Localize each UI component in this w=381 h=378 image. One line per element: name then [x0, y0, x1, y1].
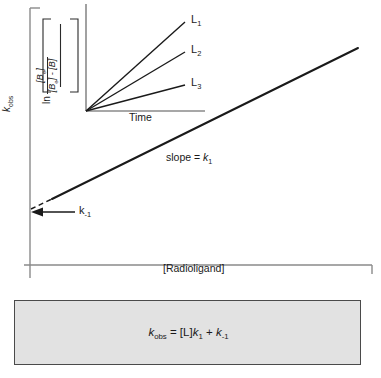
slope-annotation-prefix: slope = [166, 151, 203, 163]
inset-line-label-l1-sub: 1 [197, 19, 201, 28]
intercept-annotation: k-1 [79, 205, 91, 219]
inset-line-label-l2-sub: 2 [197, 49, 201, 58]
kobs-line-dashed-extrapolation [31, 198, 54, 209]
equation-equals: = [L] [167, 326, 193, 338]
inset-ylabel-fraction: [Be][Be] - [B] [36, 57, 59, 94]
equation-term2-sub: -1 [222, 332, 229, 341]
inset-y-axis-label: ln[Be][Be] - [B] [36, 56, 59, 104]
main-y-axis-label-base: k [1, 107, 12, 112]
inset-line-label-l3-sub: 3 [197, 82, 201, 91]
equation-lhs-sub: obs [154, 332, 167, 341]
main-data-series [31, 48, 358, 209]
kinetics-figure: kobs [Radioligand] slope = k1 k-1 Time l… [0, 0, 381, 378]
slope-annotation-subscript: 1 [208, 158, 212, 166]
inset-ylabel-numerator: [Be] [36, 66, 47, 84]
inset-line-label-l1: L1 [191, 14, 201, 28]
intercept-annotation-subscript: -1 [85, 210, 92, 219]
inset-line-label-l3: L3 [191, 77, 201, 91]
inset-data-series [86, 22, 185, 111]
inset-line-l2 [86, 52, 185, 111]
inset-ylabel-ln: ln [41, 96, 52, 104]
slope-annotation: slope = k1 [166, 152, 212, 166]
inset-line-label-l2: L2 [191, 44, 201, 58]
intercept-arrow [31, 208, 75, 217]
equation-box: kobs = [L]k1 + k-1 [14, 300, 361, 365]
inset-x-axis-label: Time [129, 112, 152, 123]
kobs-line-solid [52, 48, 358, 199]
main-y-axis-label-sub: obs [7, 96, 14, 107]
bracket-right [70, 19, 78, 92]
equation-text: kobs = [L]k1 + k-1 [15, 326, 362, 341]
main-x-axis-label: [Radioligand] [163, 263, 224, 274]
main-y-axis-label: kobs [2, 96, 15, 112]
inset-ylabel-denominator: [Be] - [B] [47, 57, 59, 94]
equation-plus: + [203, 326, 216, 338]
